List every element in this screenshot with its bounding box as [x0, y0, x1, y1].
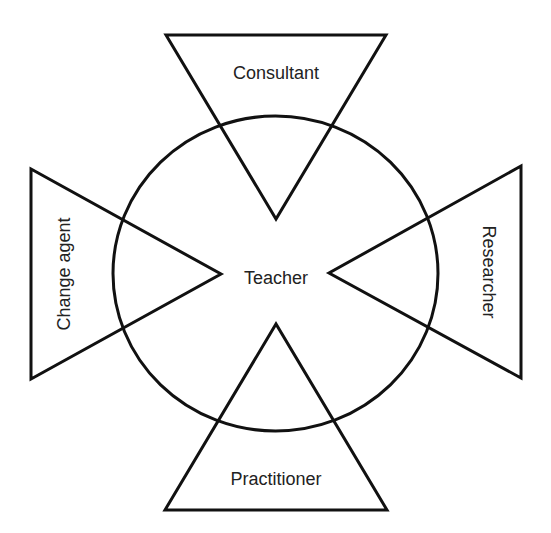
teacher-label: Teacher: [244, 268, 308, 288]
practitioner-label: Practitioner: [230, 469, 321, 489]
change-agent-label: Change agent: [54, 217, 74, 330]
researcher-label: Researcher: [479, 225, 499, 318]
consultant-label: Consultant: [233, 63, 319, 83]
teacher-roles-diagram: Teacher Consultant Change agent Research…: [0, 0, 551, 533]
